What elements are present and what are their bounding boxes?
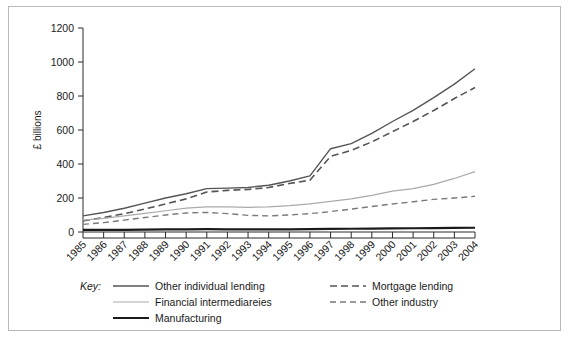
x-tick-label: 1999 (352, 238, 377, 263)
x-tick-label: 2004 (455, 238, 480, 263)
series-line-other-individual-lending (83, 69, 475, 216)
x-tick-label: 1995 (270, 238, 295, 263)
x-tick-label: 2001 (394, 238, 419, 263)
x-tick-label: 1986 (84, 238, 109, 263)
x-tick-label: 1988 (125, 238, 150, 263)
x-tick-label: 1993 (228, 238, 253, 263)
y-tick-label: 0 (68, 226, 74, 238)
legend-item-other-individual-lending: Other individual lending (113, 280, 265, 292)
line-chart: 020040060080010001200£ billions198519861… (0, 0, 569, 344)
y-tick-label: 200 (56, 192, 74, 204)
legend-label-other-individual-lending: Other individual lending (155, 280, 265, 292)
legend-label-financial-intermediareies: Financial intermediareies (155, 296, 272, 308)
x-tick-label: 1998 (332, 238, 357, 263)
y-axis-title: £ billions (32, 111, 43, 150)
y-tick-label: 1200 (51, 22, 75, 34)
x-tick-label: 2002 (414, 238, 439, 263)
x-tick-label: 1992 (208, 238, 233, 263)
legend-label-manufacturing: Manufacturing (155, 312, 222, 324)
legend-label-mortgage-lending: Mortgage lending (372, 280, 453, 292)
x-tick-label: 1985 (63, 238, 88, 263)
legend-item-manufacturing: Manufacturing (113, 312, 222, 324)
x-tick-label: 1996 (290, 238, 315, 263)
x-tick-label: 2003 (435, 238, 460, 263)
x-tick-label: 1991 (187, 238, 212, 263)
legend-item-mortgage-lending: Mortgage lending (330, 280, 453, 292)
y-tick-label: 800 (56, 90, 74, 102)
y-tick-label: 1000 (51, 56, 75, 68)
x-tick-label: 1994 (249, 238, 274, 263)
legend-label-other-industry: Other industry (372, 296, 439, 308)
series-line-manufacturing (83, 228, 475, 230)
x-tick-label: 1997 (311, 238, 336, 263)
y-tick-label: 600 (56, 124, 74, 136)
y-tick-label: 400 (56, 158, 74, 170)
x-tick-label: 1989 (146, 238, 171, 263)
x-tick-label: 2000 (373, 238, 398, 263)
legend-item-financial-intermediareies: Financial intermediareies (113, 296, 272, 308)
x-tick-label: 1990 (167, 238, 192, 263)
x-tick-label: 1987 (105, 238, 130, 263)
legend-item-other-industry: Other industry (330, 296, 439, 308)
chart-figure: 020040060080010001200£ billions198519861… (0, 0, 569, 344)
legend-key-title: Key: (80, 280, 101, 292)
series-line-financial-intermediareies (83, 172, 475, 220)
